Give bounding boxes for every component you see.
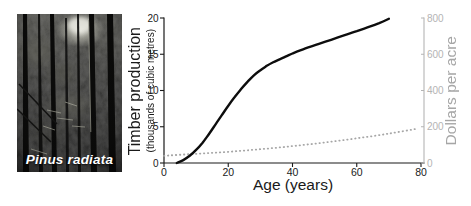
timber-production-curve xyxy=(177,19,389,163)
left-axis-title: Timber production xyxy=(126,27,144,155)
growth-chart: 051015200204060800200400600800 Timber pr… xyxy=(0,0,471,206)
left-axis-subtitle: (thousands of cubic metres) xyxy=(145,29,156,152)
right-axis-title: Dollars per acre xyxy=(442,36,460,145)
left-axis-title-group: Timber production (thousands of cubic me… xyxy=(126,8,156,174)
x-axis-title: Age (years) xyxy=(164,176,422,194)
right-axis-tick-label: 0 xyxy=(427,158,433,169)
right-axis-title-group: Dollars per acre xyxy=(442,8,460,174)
figure: Pinus radiata 05101520020406080020040060… xyxy=(0,0,471,206)
